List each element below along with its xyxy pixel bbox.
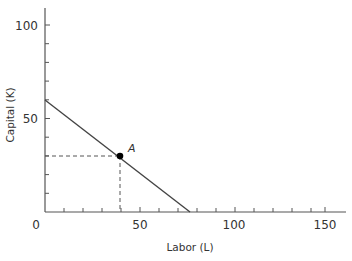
x-axis-label: Labor (L) [166, 241, 213, 253]
point-a-marker [117, 153, 124, 160]
origin-label: 0 [32, 218, 40, 232]
y-tick-label-50: 50 [23, 112, 38, 126]
y-axis-label: Capital (K) [4, 87, 16, 142]
x-tick-label-100: 100 [223, 218, 246, 232]
point-a-label: A [127, 142, 136, 155]
chart: 100 50 0 50 100 150 Labor (L) Capital (K… [0, 0, 352, 261]
x-tick-label-150: 150 [314, 218, 337, 232]
y-tick-label-100: 100 [15, 19, 38, 33]
x-ticks [64, 207, 325, 212]
x-tick-label-50: 50 [132, 218, 147, 232]
y-ticks [45, 25, 50, 193]
